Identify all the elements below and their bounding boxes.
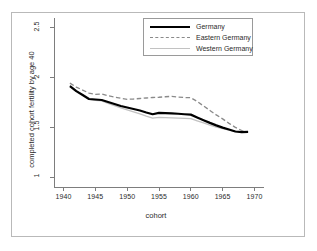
x-tick-label: 1950: [116, 193, 138, 200]
x-tick-label: 1945: [84, 193, 106, 200]
y-tick-label: 2.5: [33, 14, 40, 38]
legend-label-western-germany: Western Germany: [196, 43, 253, 55]
x-tick-label: 1970: [243, 193, 265, 200]
legend-item-western-germany: Western Germany: [144, 43, 254, 55]
y-axis-title: completed cohort fertility by age 40: [27, 45, 36, 175]
chart-legend: Germany Eastern Germany Western Germany: [143, 18, 253, 56]
x-tick-label: 1960: [180, 193, 202, 200]
legend-key-germany: [150, 26, 190, 28]
legend-key-western-germany: [150, 48, 190, 49]
series-line-western-germany: [70, 86, 248, 133]
x-tick-label: 1955: [148, 193, 170, 200]
x-tick-label: 1940: [53, 193, 75, 200]
series-line-eastern-germany: [70, 83, 248, 132]
figure-canvas: 1940194519501955196019651970 11.522.5 co…: [0, 0, 317, 251]
x-axis-title: cohort: [56, 211, 256, 220]
plot-area: 1940194519501955196019651970 11.522.5 co…: [0, 0, 317, 251]
x-tick-label: 1965: [212, 193, 234, 200]
legend-key-eastern-germany: [150, 37, 190, 38]
series-group: [70, 83, 248, 132]
series-line-germany: [70, 86, 248, 132]
